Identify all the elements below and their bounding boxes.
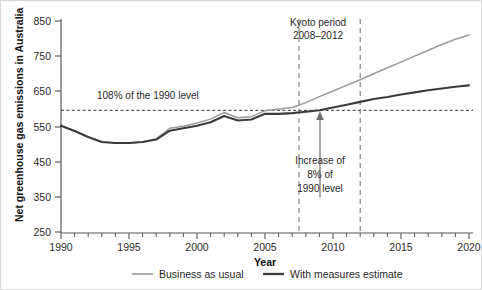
increase-callout-line2: 8% of — [307, 169, 333, 180]
y-tick-label-650: 650 — [33, 85, 51, 97]
x-tick-label-2000: 2000 — [185, 241, 209, 253]
increase-callout-arrow-head — [316, 111, 324, 120]
y-axis-ticks: 850 750 650 550 450 350 250 — [33, 15, 61, 238]
x-tick-label-2015: 2015 — [389, 241, 413, 253]
legend-label-with-measures-estimate: With measures estimate — [290, 268, 403, 280]
y-tick-label-750: 750 — [33, 50, 51, 62]
reference-line-label: 108% of the 1990 level — [97, 90, 199, 101]
y-tick-label-350: 350 — [33, 191, 51, 203]
emissions-line-chart: Net greenhouse gas emissions in Australi… — [1, 1, 482, 290]
x-tick-label-2005: 2005 — [253, 241, 277, 253]
increase-callout-line1: Increase of — [295, 155, 345, 166]
legend-label-business-as-usual: Business as usual — [159, 268, 244, 280]
x-tick-label-2020: 2020 — [457, 241, 481, 253]
y-tick-label-850: 850 — [33, 15, 51, 27]
x-axis-ticks: 1990 1995 2000 2005 2010 2015 2020 — [49, 233, 481, 253]
x-tick-label-1990: 1990 — [49, 241, 73, 253]
kyoto-period-label-line2: 2008–2012 — [293, 30, 343, 41]
x-tick-label-2010: 2010 — [321, 241, 345, 253]
x-tick-label-1995: 1995 — [117, 241, 141, 253]
chart-figure: Net greenhouse gas emissions in Australi… — [0, 0, 482, 290]
y-tick-label-550: 550 — [33, 121, 51, 133]
chart-legend: Business as usual With measures estimate — [132, 268, 403, 280]
kyoto-period-label-line1: Kyoto period — [290, 17, 346, 28]
y-axis-title: Net greenhouse gas emissions in Australi… — [13, 7, 25, 222]
x-axis-title: Year — [254, 256, 276, 268]
y-tick-label-250: 250 — [33, 226, 51, 238]
y-tick-label-450: 450 — [33, 156, 51, 168]
increase-callout-line3: 1990 level — [297, 183, 343, 194]
